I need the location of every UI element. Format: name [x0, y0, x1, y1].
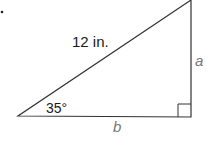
- side-b-label: b: [113, 120, 121, 134]
- side-a-label: a: [195, 54, 203, 68]
- bullet-dot: [1, 11, 4, 14]
- angle-label: 35°: [46, 101, 67, 115]
- hypotenuse-label: 12 in.: [72, 35, 109, 49]
- triangle-outline: [18, 0, 191, 117]
- triangle-figure: [0, 0, 212, 146]
- right-angle-marker: [178, 104, 191, 117]
